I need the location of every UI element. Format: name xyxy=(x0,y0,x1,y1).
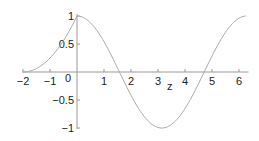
y-tick-label: −1 xyxy=(61,122,74,134)
x-tick-label: −1 xyxy=(44,75,57,87)
chart: −2−10123456 −1−0.50.51 z xyxy=(0,0,259,141)
x-tick-label: 0 xyxy=(65,72,71,84)
x-axis: −2−10123456 xyxy=(17,69,249,87)
x-tick-label: 5 xyxy=(209,75,215,87)
x-tick-label: −2 xyxy=(17,75,30,87)
x-tick-label: 3 xyxy=(155,75,161,87)
x-tick-label: 1 xyxy=(101,75,107,87)
x-axis-label: z xyxy=(167,80,173,92)
y-tick-label: 1 xyxy=(68,10,74,22)
x-tick-label: 6 xyxy=(236,75,242,87)
y-tick-label: −0.5 xyxy=(52,94,74,106)
x-tick-label: 4 xyxy=(182,75,188,87)
x-tick-label: 2 xyxy=(128,75,134,87)
